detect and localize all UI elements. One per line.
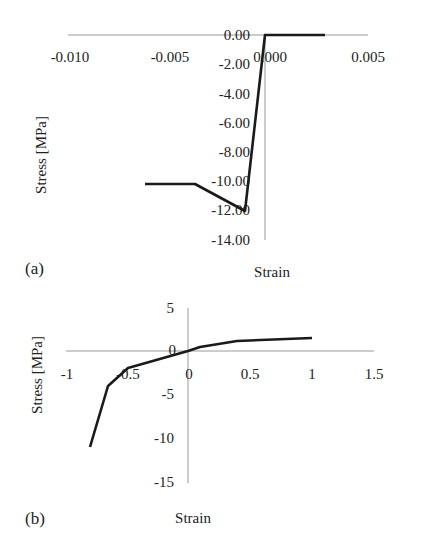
chart-b-series-line bbox=[90, 338, 312, 447]
chart-b-ytick: 5 bbox=[167, 300, 175, 316]
chart-a-ytick: -10.00 bbox=[211, 173, 250, 189]
chart-a-xlabel: Strain bbox=[254, 264, 290, 280]
chart-b-xtick: -1 bbox=[61, 366, 74, 382]
chart-b-xtick: 0.5 bbox=[241, 366, 260, 382]
chart-b: -1 -0.5 0 0.5 1 1.5 5 0 -5 -10 -15 Stres… bbox=[25, 300, 383, 528]
chart-a-ytick: -6.00 bbox=[219, 115, 250, 131]
chart-a-ylabel: Stress [MPa] bbox=[33, 116, 49, 194]
chart-a-ytick: -2.00 bbox=[219, 56, 250, 72]
chart-a-ytick: -14.00 bbox=[211, 232, 250, 248]
chart-a-ytick: -4.00 bbox=[219, 86, 250, 102]
chart-a-xtick: 0.000 bbox=[253, 49, 287, 65]
chart-a-xtick: -0.005 bbox=[151, 49, 190, 65]
chart-a-panel-label: (a) bbox=[25, 259, 44, 278]
chart-b-panel-label: (b) bbox=[25, 509, 45, 528]
chart-b-xlabel: Strain bbox=[175, 510, 211, 526]
chart-b-xtick: 1 bbox=[308, 366, 316, 382]
figure: -0.010 -0.005 0.000 0.005 0.00 -2.00 -4.… bbox=[0, 0, 427, 542]
chart-b-xtick: 1.5 bbox=[365, 366, 384, 382]
chart-a-xtick: -0.010 bbox=[51, 49, 90, 65]
chart-b-ytick: -5 bbox=[162, 386, 175, 402]
chart-b-xtick: 0 bbox=[185, 366, 193, 382]
chart-a: -0.010 -0.005 0.000 0.005 0.00 -2.00 -4.… bbox=[25, 27, 385, 280]
chart-a-ytick: 0.00 bbox=[224, 27, 250, 43]
chart-b-ylabel: Stress [MPa] bbox=[29, 336, 45, 414]
chart-b-ytick: -15 bbox=[154, 474, 174, 490]
chart-a-xtick: 0.005 bbox=[351, 49, 385, 65]
chart-b-ytick: -10 bbox=[154, 430, 174, 446]
chart-a-ytick: -8.00 bbox=[219, 144, 250, 160]
